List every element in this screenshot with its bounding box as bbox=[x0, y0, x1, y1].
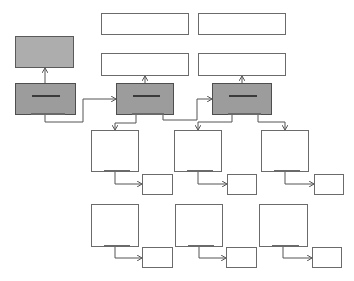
diagram-node-row1-c1[interactable] bbox=[91, 130, 139, 172]
anchor-strip bbox=[31, 113, 65, 115]
anchor-strip bbox=[272, 245, 299, 247]
connector-arrow bbox=[285, 172, 314, 184]
title-line bbox=[229, 95, 257, 97]
anchor-strip bbox=[188, 245, 214, 247]
diagram-node-row2-c2[interactable] bbox=[175, 204, 223, 247]
diagram-node-top-a2[interactable] bbox=[198, 13, 286, 35]
connector-arrow bbox=[115, 247, 142, 258]
diagram-node-left-upper[interactable] bbox=[15, 36, 74, 68]
diagram-node-right[interactable] bbox=[212, 83, 272, 115]
diagram-node-row1-c3[interactable] bbox=[261, 130, 309, 172]
connector-arrow bbox=[198, 115, 232, 130]
diagram-node-row1-c2[interactable] bbox=[174, 130, 222, 172]
diagram-node-row2-s1[interactable] bbox=[142, 247, 173, 268]
diagram-node-top-b2[interactable] bbox=[198, 53, 286, 76]
connector-arrow bbox=[283, 247, 312, 258]
connector-arrow bbox=[199, 247, 226, 258]
diagram-node-row2-s3[interactable] bbox=[312, 247, 342, 268]
title-line bbox=[32, 95, 60, 97]
anchor-strip bbox=[104, 245, 130, 247]
anchor-strip bbox=[104, 170, 130, 172]
connector-arrow bbox=[115, 172, 142, 184]
connector-arrow bbox=[115, 115, 136, 130]
diagram-node-top-b1[interactable] bbox=[101, 53, 189, 76]
diagram-canvas bbox=[0, 0, 354, 281]
title-line bbox=[133, 95, 160, 97]
diagram-node-row1-s1[interactable] bbox=[142, 174, 173, 195]
diagram-node-row1-s3[interactable] bbox=[314, 174, 344, 195]
diagram-node-top-a1[interactable] bbox=[101, 13, 189, 35]
anchor-strip bbox=[132, 113, 164, 115]
anchor-strip bbox=[274, 170, 300, 172]
diagram-node-center[interactable] bbox=[116, 83, 174, 115]
diagram-node-row1-s2[interactable] bbox=[227, 174, 257, 195]
diagram-node-row2-c3[interactable] bbox=[259, 204, 308, 247]
diagram-node-row2-s2[interactable] bbox=[226, 247, 257, 268]
diagram-node-row2-c1[interactable] bbox=[91, 204, 139, 247]
anchor-strip bbox=[228, 113, 261, 115]
connector-arrow bbox=[198, 172, 227, 184]
anchor-strip bbox=[187, 170, 213, 172]
connector-arrow bbox=[258, 115, 285, 130]
diagram-node-left-lower[interactable] bbox=[15, 83, 76, 115]
